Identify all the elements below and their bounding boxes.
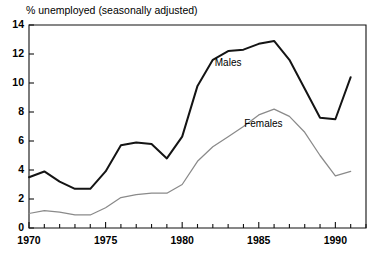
y-axis-tick-label: 12 (12, 47, 24, 59)
x-axis-tick-label: 1975 (94, 234, 118, 246)
plot-frame (29, 25, 366, 228)
y-axis-tick-label: 0 (18, 221, 24, 233)
chart-title: % unemployed (seasonally adjusted) (26, 4, 198, 16)
series-annotations: MalesFemales (215, 57, 283, 129)
y-axis-tick-label: 4 (18, 163, 24, 175)
x-axis-tick-label: 1970 (17, 234, 41, 246)
y-axis-tick-labels: 02468101214 (12, 18, 24, 233)
x-axis-tick-label: 1980 (171, 234, 195, 246)
y-axis-tick-label: 8 (18, 105, 24, 117)
x-axis-ticks (29, 222, 366, 228)
y-axis-tick-label: 14 (12, 18, 24, 30)
y-axis-ticks (29, 25, 34, 228)
y-axis-tick-label: 10 (12, 76, 24, 88)
series-line-females (29, 109, 351, 215)
y-axis-tick-label: 2 (18, 192, 24, 204)
series-label-males: Males (215, 57, 242, 68)
x-axis-tick-label: 1985 (247, 234, 271, 246)
x-axis-tick-labels: 19701975198019851990 (17, 234, 347, 246)
unemployment-line-chart: % unemployed (seasonally adjusted) 02468… (0, 0, 390, 255)
chart-svg: % unemployed (seasonally adjusted) 02468… (0, 0, 390, 255)
x-axis-tick-label: 1990 (324, 234, 348, 246)
y-axis-tick-label: 6 (18, 134, 24, 146)
series-label-females: Females (244, 118, 282, 129)
series-line-males (29, 41, 351, 189)
